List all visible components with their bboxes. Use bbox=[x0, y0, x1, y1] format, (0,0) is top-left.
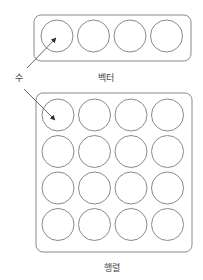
diagram-canvas bbox=[0, 0, 203, 280]
matrix-element-circle bbox=[152, 99, 184, 131]
matrix-diagram bbox=[36, 93, 192, 252]
matrix-label: 행렬 bbox=[104, 261, 120, 274]
matrix-element-circle bbox=[152, 209, 184, 241]
matrix-element-circle bbox=[115, 172, 147, 204]
vector-label: 벡터 bbox=[98, 71, 114, 84]
matrix-element-circle bbox=[42, 209, 74, 241]
matrix-element-circle bbox=[79, 209, 111, 241]
vector-element-circle bbox=[78, 20, 110, 52]
arrow-icon bbox=[27, 38, 56, 68]
matrix-element-circle bbox=[42, 99, 74, 131]
matrix-element-circle bbox=[79, 99, 111, 131]
matrix-element-circle bbox=[115, 99, 147, 131]
matrix-element-circle bbox=[42, 172, 74, 204]
matrix-element-circle bbox=[152, 172, 184, 204]
vector-element-circle bbox=[41, 20, 73, 52]
number-arrows bbox=[24, 38, 56, 120]
vector-diagram bbox=[34, 15, 191, 61]
vector-box bbox=[34, 15, 191, 61]
matrix-element-circle bbox=[115, 209, 147, 241]
matrix-element-circle bbox=[79, 136, 111, 168]
matrix-element-circle bbox=[115, 136, 147, 168]
matrix-element-circle bbox=[42, 136, 74, 168]
matrix-element-circle bbox=[79, 172, 111, 204]
vector-element-circle bbox=[114, 20, 146, 52]
number-label: 수 bbox=[15, 71, 23, 84]
matrix-element-circle bbox=[152, 136, 184, 168]
vector-element-circle bbox=[151, 20, 183, 52]
